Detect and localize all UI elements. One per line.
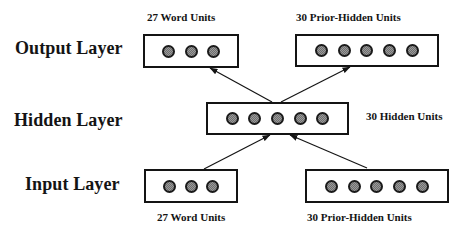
unit-node-icon	[316, 112, 329, 125]
unit-node-icon	[185, 180, 198, 193]
unit-node-icon	[226, 112, 239, 125]
unit-node-icon	[315, 44, 328, 57]
hidden-layer-label: Hidden Layer	[14, 110, 123, 130]
arrow-hidden-to-output-word	[210, 68, 272, 102]
output-prior-hidden-units-box	[295, 34, 439, 67]
unit-node-icon	[338, 44, 351, 57]
unit-node-icon	[393, 180, 406, 193]
unit-node-icon	[383, 44, 396, 57]
unit-node-icon	[206, 180, 219, 193]
arrow-input-prior-hidden-to-hidden	[290, 135, 367, 168]
unit-node-icon	[360, 44, 373, 57]
unit-node-icon	[248, 112, 261, 125]
input-word-units-label: 27 Word Units	[157, 211, 225, 223]
arrow-hidden-to-output-prior-hidden	[281, 67, 350, 102]
output-word-units-box	[143, 34, 239, 68]
unit-node-icon	[163, 180, 176, 193]
unit-node-icon	[162, 45, 175, 58]
hidden-units-box	[206, 102, 349, 135]
unit-node-icon	[406, 44, 419, 57]
arrow-input-word-to-hidden	[204, 135, 270, 169]
unit-node-icon	[325, 180, 338, 193]
output-layer-label: Output Layer	[15, 38, 123, 58]
unit-node-icon	[348, 180, 361, 193]
unit-node-icon	[370, 180, 383, 193]
input-layer-label: Input Layer	[25, 174, 120, 194]
output-prior-hidden-units-label: 30 Prior-Hidden Units	[296, 11, 401, 23]
unit-node-icon	[207, 45, 220, 58]
input-prior-hidden-units-box	[305, 169, 449, 203]
input-word-units-box	[144, 169, 238, 203]
unit-node-icon	[294, 112, 307, 125]
input-prior-hidden-units-label: 30 Prior-Hidden Units	[307, 211, 412, 223]
unit-node-icon	[271, 112, 284, 125]
unit-node-icon	[185, 45, 198, 58]
unit-node-icon	[416, 180, 429, 193]
output-word-units-label: 27 Word Units	[147, 11, 215, 23]
hidden-units-label: 30 Hidden Units	[366, 110, 442, 122]
